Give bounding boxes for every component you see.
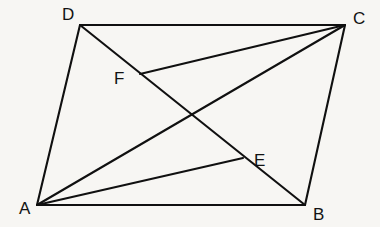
- side-bc: [305, 25, 345, 205]
- point-label-b: B: [313, 205, 324, 224]
- point-label-e: E: [254, 151, 265, 170]
- segment-ac-through-f-and-e: [37, 25, 345, 205]
- segment-a-to-e: [37, 158, 243, 205]
- segment-f-to-c: [140, 25, 345, 74]
- point-label-f: F: [114, 69, 124, 88]
- interior-segments: [37, 25, 345, 205]
- point-label-d: D: [62, 5, 74, 24]
- geometry-diagram: ABCDEF: [0, 0, 380, 227]
- point-label-c: C: [353, 9, 365, 28]
- side-da: [37, 25, 80, 205]
- figure-canvas: ABCDEF: [0, 0, 380, 227]
- point-label-a: A: [19, 199, 31, 218]
